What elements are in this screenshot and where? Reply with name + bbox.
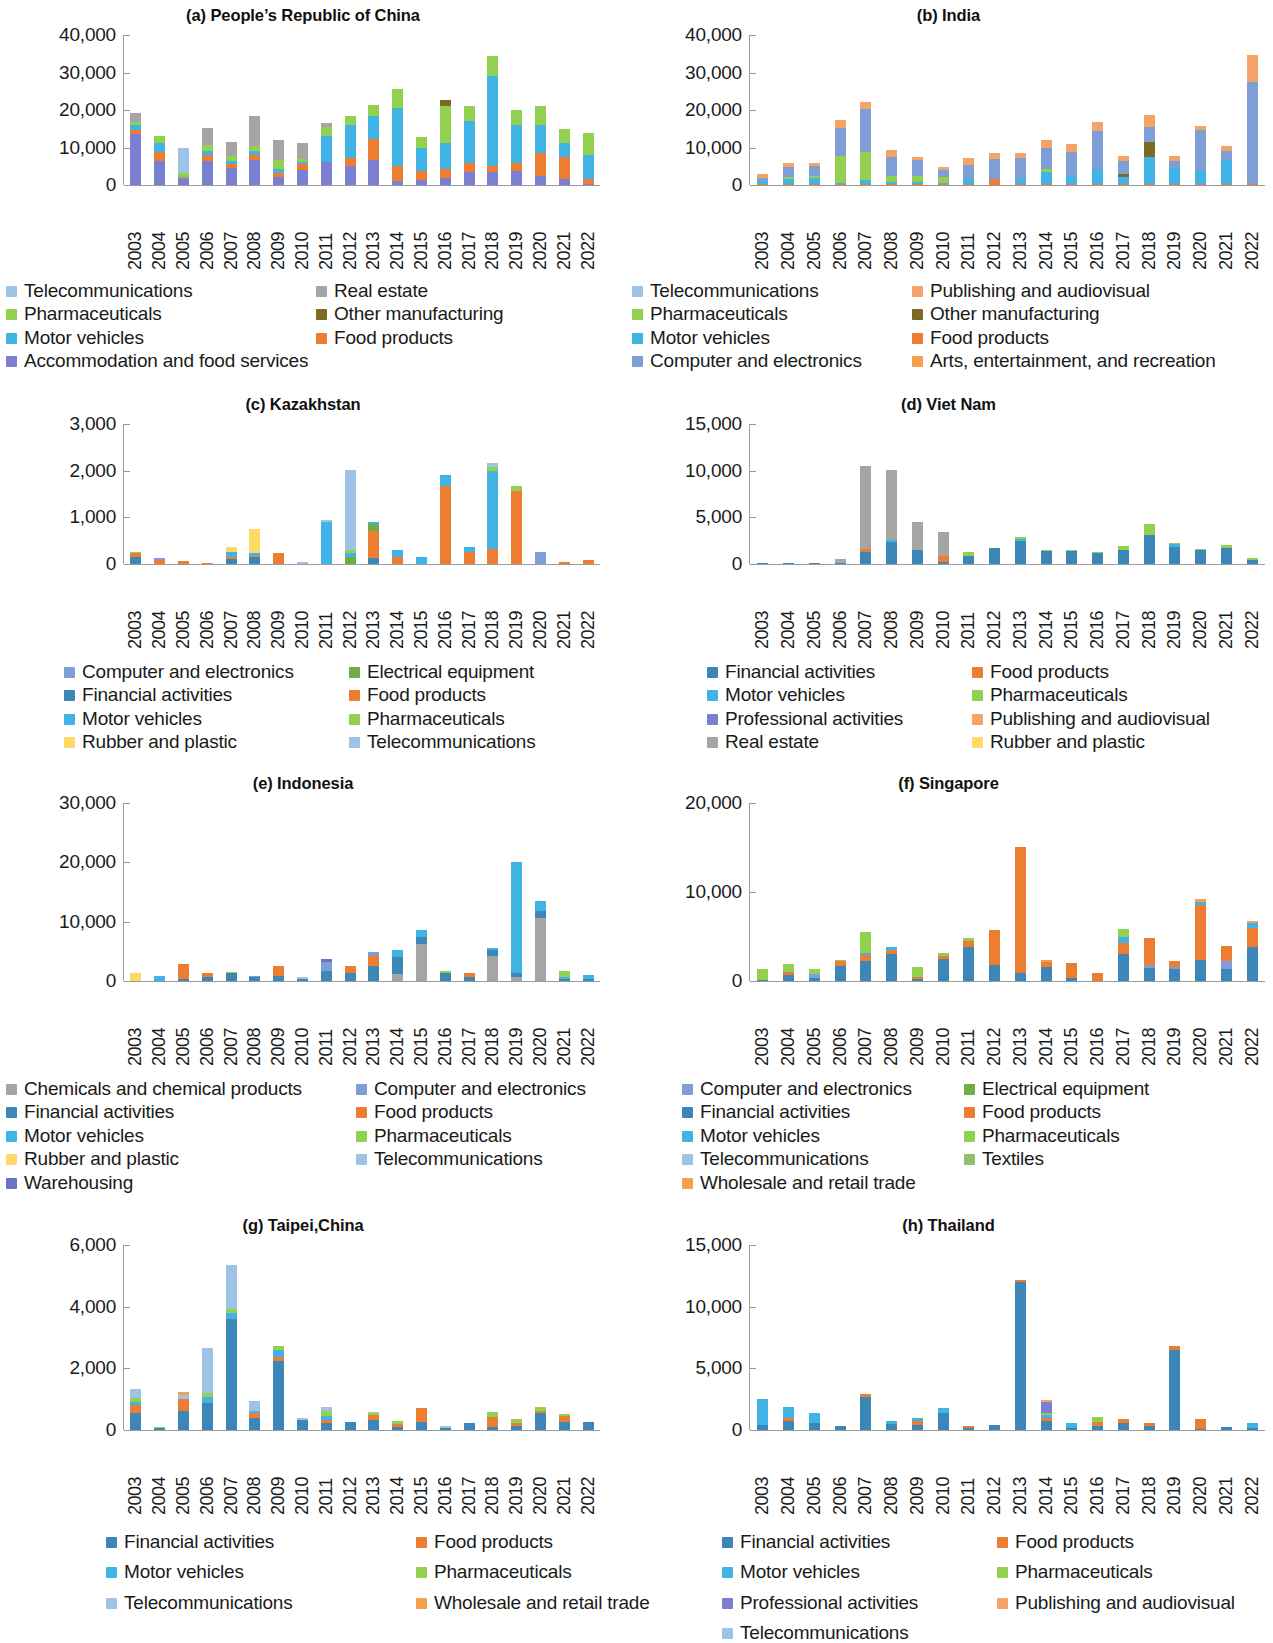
bar-d-2004[interactable] bbox=[783, 563, 794, 564]
legend-item-g-wholesale-and-retail-trade[interactable]: Wholesale and retail trade bbox=[416, 1592, 650, 1614]
legend-item-e-pharmaceuticals[interactable]: Pharmaceuticals bbox=[356, 1125, 600, 1147]
legend-item-b-pharmaceuticals[interactable]: Pharmaceuticals bbox=[632, 303, 902, 325]
bar-h-2007[interactable] bbox=[860, 1394, 871, 1430]
bar-a-2005[interactable] bbox=[178, 148, 189, 185]
legend-item-c-electrical-equipment[interactable]: Electrical equipment bbox=[349, 661, 600, 683]
legend-item-h-publishing-and-audiovisual[interactable]: Publishing and audiovisual bbox=[997, 1592, 1265, 1614]
bar-c-2012[interactable] bbox=[345, 470, 356, 564]
bar-a-2022[interactable] bbox=[583, 133, 594, 186]
bar-d-2003[interactable] bbox=[757, 563, 768, 564]
legend-item-g-food-products[interactable]: Food products bbox=[416, 1531, 650, 1553]
legend-item-c-motor-vehicles[interactable]: Motor vehicles bbox=[64, 708, 339, 730]
legend-item-h-food-products[interactable]: Food products bbox=[997, 1531, 1265, 1553]
bar-c-2006[interactable] bbox=[202, 563, 213, 564]
bar-b-2021[interactable] bbox=[1221, 146, 1232, 185]
bar-a-2006[interactable] bbox=[202, 128, 213, 185]
bar-a-2003[interactable] bbox=[130, 113, 141, 185]
legend-item-b-publishing-and-audiovisual[interactable]: Publishing and audiovisual bbox=[912, 280, 1265, 302]
bar-d-2019[interactable] bbox=[1169, 543, 1180, 564]
bar-d-2017[interactable] bbox=[1118, 546, 1129, 564]
bar-h-2019[interactable] bbox=[1169, 1346, 1180, 1430]
bar-d-2009[interactable] bbox=[912, 522, 923, 564]
bar-f-2021[interactable] bbox=[1221, 946, 1232, 981]
bar-g-2010[interactable] bbox=[297, 1418, 308, 1430]
bar-f-2022[interactable] bbox=[1247, 921, 1258, 981]
bar-g-2011[interactable] bbox=[321, 1407, 332, 1430]
bar-h-2011[interactable] bbox=[963, 1426, 974, 1430]
bar-e-2010[interactable] bbox=[297, 977, 308, 981]
bar-f-2020[interactable] bbox=[1195, 899, 1206, 981]
bar-h-2021[interactable] bbox=[1221, 1427, 1232, 1430]
bar-c-2015[interactable] bbox=[416, 557, 427, 564]
bar-h-2013[interactable] bbox=[1015, 1280, 1026, 1430]
bar-a-2021[interactable] bbox=[559, 129, 570, 185]
bar-e-2003[interactable] bbox=[130, 973, 141, 981]
bar-c-2004[interactable] bbox=[154, 558, 165, 564]
bar-d-2022[interactable] bbox=[1247, 558, 1258, 564]
bar-c-2017[interactable] bbox=[464, 547, 475, 564]
legend-item-a-telecommunications[interactable]: Telecommunications bbox=[6, 280, 306, 302]
bar-g-2018[interactable] bbox=[487, 1412, 498, 1430]
bar-h-2010[interactable] bbox=[938, 1408, 949, 1430]
legend-item-g-telecommunications[interactable]: Telecommunications bbox=[106, 1592, 406, 1614]
bar-h-2008[interactable] bbox=[886, 1421, 897, 1430]
bar-e-2014[interactable] bbox=[392, 950, 403, 981]
bar-f-2015[interactable] bbox=[1066, 963, 1077, 981]
bar-f-2008[interactable] bbox=[886, 947, 897, 981]
bar-h-2003[interactable] bbox=[757, 1399, 768, 1430]
bar-c-2008[interactable] bbox=[249, 529, 260, 564]
bar-g-2007[interactable] bbox=[226, 1265, 237, 1430]
legend-item-g-pharmaceuticals[interactable]: Pharmaceuticals bbox=[416, 1561, 650, 1583]
legend-item-e-chemicals-and-chemical-products[interactable]: Chemicals and chemical products bbox=[6, 1078, 346, 1100]
bar-c-2010[interactable] bbox=[297, 562, 308, 564]
bar-b-2008[interactable] bbox=[886, 150, 897, 185]
bar-d-2012[interactable] bbox=[989, 548, 1000, 564]
legend-item-c-pharmaceuticals[interactable]: Pharmaceuticals bbox=[349, 708, 600, 730]
bar-e-2004[interactable] bbox=[154, 976, 165, 981]
bar-h-2020[interactable] bbox=[1195, 1419, 1206, 1430]
bar-f-2016[interactable] bbox=[1092, 973, 1103, 981]
bar-b-2012[interactable] bbox=[989, 153, 1000, 185]
bar-a-2008[interactable] bbox=[249, 116, 260, 185]
bar-e-2011[interactable] bbox=[321, 959, 332, 981]
legend-item-a-motor-vehicles[interactable]: Motor vehicles bbox=[6, 327, 306, 349]
bar-a-2010[interactable] bbox=[297, 143, 308, 185]
bar-f-2014[interactable] bbox=[1041, 960, 1052, 981]
bar-h-2005[interactable] bbox=[809, 1413, 820, 1430]
bar-f-2017[interactable] bbox=[1118, 929, 1129, 981]
legend-item-c-financial-activities[interactable]: Financial activities bbox=[64, 684, 339, 706]
bar-d-2010[interactable] bbox=[938, 532, 949, 564]
legend-item-e-food-products[interactable]: Food products bbox=[356, 1101, 600, 1123]
bar-g-2004[interactable] bbox=[154, 1427, 165, 1430]
legend-item-c-food-products[interactable]: Food products bbox=[349, 684, 600, 706]
bar-c-2003[interactable] bbox=[130, 552, 141, 564]
bar-e-2015[interactable] bbox=[416, 930, 427, 981]
bar-a-2020[interactable] bbox=[535, 106, 546, 185]
bar-g-2013[interactable] bbox=[368, 1412, 379, 1430]
bar-a-2014[interactable] bbox=[392, 89, 403, 185]
bar-c-2009[interactable] bbox=[273, 553, 284, 564]
bar-b-2004[interactable] bbox=[783, 163, 794, 185]
legend-item-a-accommodation-and-food-services[interactable]: Accommodation and food services bbox=[6, 350, 306, 372]
bar-h-2009[interactable] bbox=[912, 1418, 923, 1430]
bar-b-2011[interactable] bbox=[963, 158, 974, 185]
bar-g-2006[interactable] bbox=[202, 1348, 213, 1430]
bar-e-2018[interactable] bbox=[487, 948, 498, 981]
legend-item-d-professional-activities[interactable]: Professional activities bbox=[707, 708, 962, 730]
bar-c-2005[interactable] bbox=[178, 561, 189, 564]
bar-d-2006[interactable] bbox=[835, 559, 846, 564]
bar-a-2004[interactable] bbox=[154, 136, 165, 185]
legend-item-e-computer-and-electronics[interactable]: Computer and electronics bbox=[356, 1078, 600, 1100]
bar-h-2012[interactable] bbox=[989, 1425, 1000, 1430]
legend-item-b-computer-and-electronics[interactable]: Computer and electronics bbox=[632, 350, 902, 372]
bar-b-2010[interactable] bbox=[938, 167, 949, 185]
bar-d-2007[interactable] bbox=[860, 466, 871, 564]
bar-c-2021[interactable] bbox=[559, 562, 570, 564]
legend-item-b-other-manufacturing[interactable]: Other manufacturing bbox=[912, 303, 1265, 325]
legend-item-d-motor-vehicles[interactable]: Motor vehicles bbox=[707, 684, 962, 706]
bar-h-2017[interactable] bbox=[1118, 1419, 1129, 1430]
bar-f-2007[interactable] bbox=[860, 932, 871, 981]
bar-d-2008[interactable] bbox=[886, 470, 897, 564]
bar-b-2019[interactable] bbox=[1169, 156, 1180, 185]
legend-item-h-pharmaceuticals[interactable]: Pharmaceuticals bbox=[997, 1561, 1265, 1583]
